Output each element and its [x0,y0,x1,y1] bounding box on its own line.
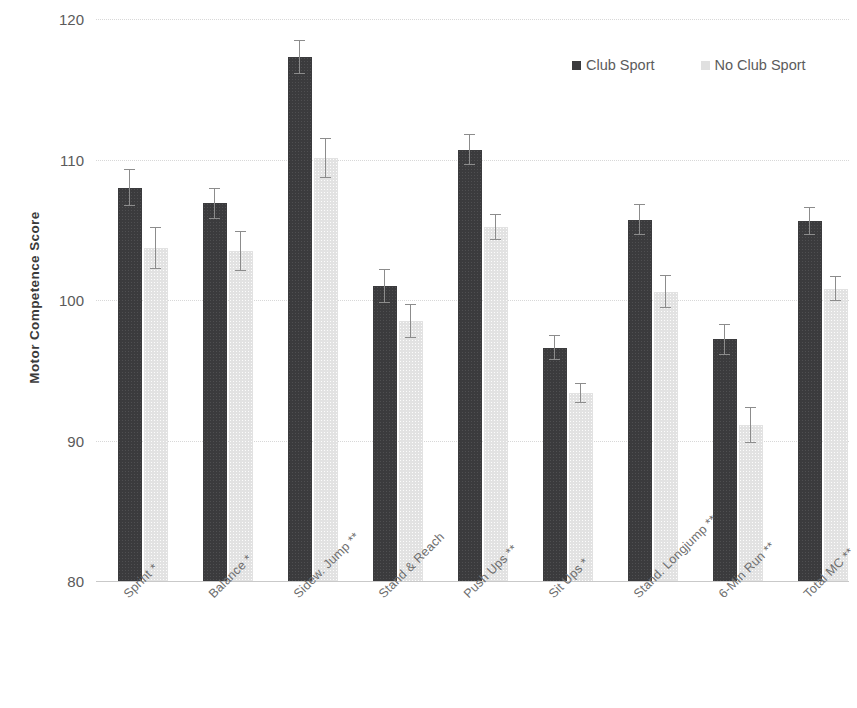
error-bar-cap-bottom [804,234,815,235]
bar-group [118,19,168,581]
error-bar-cap-bottom [150,268,161,269]
error-bar-cap-bottom [745,442,756,443]
error-bar [750,407,751,444]
error-bar [410,304,411,338]
error-bar-cap-top [490,214,501,215]
bar-no-club-sport[interactable] [399,321,423,581]
bar-group [203,19,253,581]
error-bar [299,40,300,74]
error-bar-cap-bottom [235,270,246,271]
bar-no-club-sport[interactable] [569,393,593,581]
error-bar-cap-bottom [490,239,501,240]
error-bar-cap-top [804,207,815,208]
error-bar-cap-top [294,40,305,41]
y-axis-tick-label: 110 [60,151,84,168]
bar-club-sport[interactable] [288,57,312,581]
error-bar [384,269,385,303]
error-bar-cap-top [719,324,730,325]
bar-club-sport[interactable] [118,188,142,581]
error-bar-cap-bottom [464,164,475,165]
bar-no-club-sport[interactable] [144,248,168,581]
bar-club-sport[interactable] [798,221,822,581]
legend-swatch-icon-no-club-sport [701,61,710,70]
error-bar-cap-bottom [124,205,135,206]
y-axis-title: Motor Competence Score [27,168,42,428]
bar-group [288,19,338,581]
bar-no-club-sport[interactable] [654,292,678,581]
error-bar-cap-bottom [320,177,331,178]
error-bar-cap-top [634,204,645,205]
error-bar [665,275,666,309]
error-bar-cap-bottom [660,307,671,308]
bar-no-club-sport[interactable] [824,289,848,581]
legend-label-club-sport: Club Sport [586,57,655,73]
error-bar-cap-top [150,227,161,228]
bar-club-sport[interactable] [373,286,397,581]
error-bar [639,204,640,235]
bar-chart-figure: Motor Competence Score 8090100110120 Spr… [0,0,857,708]
error-bar-cap-top [575,383,586,384]
bar-group [458,19,508,581]
error-bar-cap-top [405,304,416,305]
bar-no-club-sport[interactable] [314,158,338,581]
bar-group [373,19,423,581]
error-bar [214,188,215,219]
legend-entry-no-club-sport[interactable]: No Club Sport [701,57,806,73]
legend-label-no-club-sport: No Club Sport [715,57,806,73]
bar-group [713,19,763,581]
error-bar [724,324,725,355]
error-bar [155,227,156,269]
y-axis-tick-label: 120 [59,11,84,28]
bar-no-club-sport[interactable] [229,251,253,581]
error-bar-cap-bottom [634,234,645,235]
error-bar [835,276,836,301]
error-bar-cap-top [830,276,841,277]
error-bar [809,207,810,235]
bar-club-sport[interactable] [458,150,482,581]
error-bar-cap-top [124,169,135,170]
error-bar-cap-top [209,188,220,189]
error-bar-cap-bottom [549,359,560,360]
bar-group [628,19,678,581]
bar-no-club-sport[interactable] [484,227,508,581]
chart-legend: Club Sport No Club Sport [572,57,806,73]
bar-group [798,19,848,581]
bar-club-sport[interactable] [203,203,227,581]
error-bar-cap-bottom [575,402,586,403]
error-bar-cap-bottom [209,218,220,219]
plot-area: 8090100110120 [96,19,849,581]
error-bar [129,169,130,206]
error-bar-cap-top [320,138,331,139]
error-bar [554,335,555,360]
bar-group [543,19,593,581]
error-bar-cap-top [745,407,756,408]
bar-club-sport[interactable] [628,220,652,581]
error-bar-cap-top [379,269,390,270]
error-bar [240,231,241,270]
error-bar-cap-top [235,231,246,232]
error-bar-cap-bottom [719,354,730,355]
error-bar [325,138,326,177]
error-bar-cap-top [549,335,560,336]
error-bar-cap-top [660,275,671,276]
bar-club-sport[interactable] [713,339,737,581]
error-bar [580,383,581,403]
legend-swatch-icon-club-sport [572,61,581,70]
y-axis-tick-label: 100 [59,292,84,309]
bar-club-sport[interactable] [543,348,567,581]
y-axis-tick-label: 80 [67,573,84,590]
error-bar-cap-bottom [294,73,305,74]
error-bar [495,214,496,239]
error-bar-cap-bottom [379,302,390,303]
error-bar [469,134,470,165]
y-axis-tick-label: 90 [67,432,84,449]
error-bar-cap-bottom [830,300,841,301]
error-bar-cap-bottom [405,337,416,338]
error-bar-cap-top [464,134,475,135]
legend-entry-club-sport[interactable]: Club Sport [572,57,655,73]
